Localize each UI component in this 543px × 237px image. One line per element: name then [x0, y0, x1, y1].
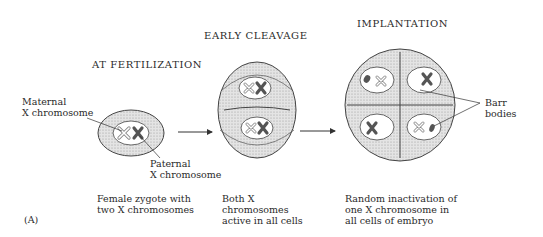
barr-bodies-label: Barr bodies [485, 97, 516, 119]
caption-implantation: Random inactivation of one X chromosome … [345, 193, 457, 226]
implantation-embryo [345, 49, 455, 161]
maternal-label: Maternal X chromosome [22, 96, 93, 118]
caption-fertilization: Female zygote with two X chromosomes [97, 193, 194, 215]
stage-title-implantation: IMPLANTATION [357, 18, 448, 29]
zygote [98, 110, 164, 156]
paternal-label: Paternal X chromosome [150, 158, 221, 180]
panel-label: (A) [24, 214, 38, 225]
stage-title-fertilization: AT FERTILIZATION [92, 59, 202, 70]
cleavage-embryo [218, 62, 296, 158]
caption-cleavage: Both X chromosomes active in all cells [222, 193, 303, 226]
stage-title-cleavage: EARLY CLEAVAGE [204, 30, 308, 41]
